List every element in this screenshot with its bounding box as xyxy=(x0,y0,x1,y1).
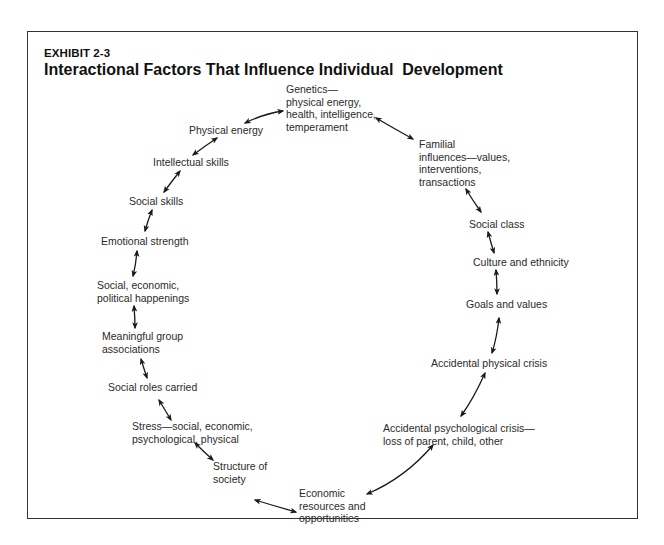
arrow-happenings-emotional xyxy=(133,251,137,276)
arrow-intellectual-physical-energy xyxy=(193,138,217,155)
arrow-social-class-culture xyxy=(488,232,494,253)
arrow-stress-social-roles xyxy=(159,400,171,420)
arrow-genetics-familial xyxy=(376,118,413,139)
arrow-structure-stress xyxy=(195,443,213,460)
arrow-culture-goals xyxy=(496,270,497,294)
arrow-economic-structure xyxy=(255,500,296,512)
arrow-group-happenings xyxy=(134,306,135,328)
arrow-psych-crisis-economic xyxy=(367,445,433,494)
arrow-social-roles-group xyxy=(141,359,147,378)
arrow-social-skills-intellectual xyxy=(164,171,180,192)
arrow-familial-social-class xyxy=(466,189,481,212)
arrow-emotional-social-skills xyxy=(145,210,152,231)
arrow-physical-energy-genetics xyxy=(245,111,283,123)
arrows-layer xyxy=(0,0,664,545)
arrow-goals-physical-crisis xyxy=(492,318,499,353)
arrow-physical-crisis-psych-crisis xyxy=(461,373,485,416)
